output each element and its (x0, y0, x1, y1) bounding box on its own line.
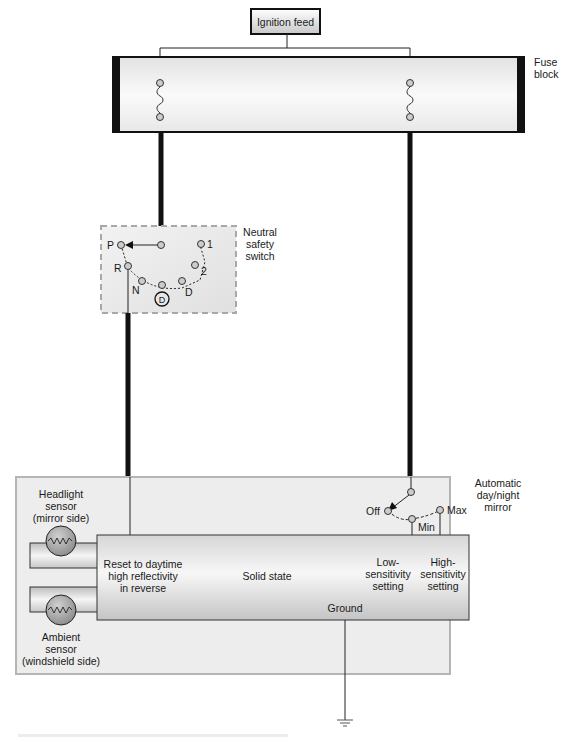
ground-text: Ground (327, 602, 362, 614)
ground-icon (337, 720, 353, 726)
ignition-feed-label: Ignition feed (257, 16, 314, 28)
pos-label-1: 1 (207, 238, 213, 250)
headlight-sensor-label-3: (mirror side) (33, 512, 90, 524)
fuse-block-label-2: block (534, 68, 559, 80)
sens-label-off: Off (366, 505, 380, 517)
switch-label-1: Neutral (243, 226, 277, 238)
overdrive-label: D (159, 295, 166, 305)
contact-off (385, 508, 392, 515)
contact-R (125, 263, 132, 270)
contact-OD (159, 282, 166, 289)
mirror-label-2: day/night (477, 489, 520, 501)
contact-1 (198, 241, 205, 248)
wiring-diagram: Ignition feed Fuse block (0, 0, 561, 742)
contact-D (179, 278, 186, 285)
pos-label-P: P (107, 239, 114, 251)
solid-state-text: Solid state (242, 570, 291, 582)
ambient-sensor-icon (46, 595, 76, 625)
figure-caption-faint (18, 734, 288, 737)
mirror-label-3: mirror (484, 501, 512, 513)
pos-label-R: R (114, 262, 122, 274)
ambient-sensor-label-3: (windshield side) (22, 655, 100, 667)
contact-P (118, 242, 125, 249)
contact-2 (192, 262, 199, 269)
contact-min (409, 516, 416, 523)
headlight-sensor-label-1: Headlight (39, 488, 83, 500)
high-sensitivity-text-1: High- (430, 556, 456, 568)
reset-text-2: high reflectivity (108, 570, 178, 582)
pos-label-D: D (185, 286, 193, 298)
ignition-feed-box: Ignition feed (251, 9, 320, 34)
low-sensitivity-text-1: Low- (377, 556, 400, 568)
sens-label-max: Max (447, 504, 468, 516)
reset-text-3: in reverse (120, 582, 166, 594)
low-sensitivity-text-3: setting (373, 580, 404, 592)
pos-label-2: 2 (201, 265, 207, 277)
pos-label-N: N (132, 284, 140, 296)
ambient-sensor-label-1: Ambient (42, 631, 81, 643)
switch-label-3: switch (245, 250, 274, 262)
high-sensitivity-text-2: sensitivity (420, 568, 466, 580)
mirror-label-1: Automatic (475, 477, 522, 489)
sens-label-min: Min (418, 521, 435, 533)
ambient-sensor-label-2: sensor (45, 643, 77, 655)
headlight-sensor-label-2: sensor (45, 500, 77, 512)
fuse-block (113, 57, 524, 132)
low-sensitivity-text-2: sensitivity (365, 568, 411, 580)
switch-label-2: safety (246, 238, 275, 250)
headlight-sensor-icon (46, 526, 76, 556)
fuse-block-label-1: Fuse (534, 56, 558, 68)
contact-max (437, 507, 444, 514)
reset-text-1: Reset to daytime (104, 558, 183, 570)
high-sensitivity-text-3: setting (428, 580, 459, 592)
